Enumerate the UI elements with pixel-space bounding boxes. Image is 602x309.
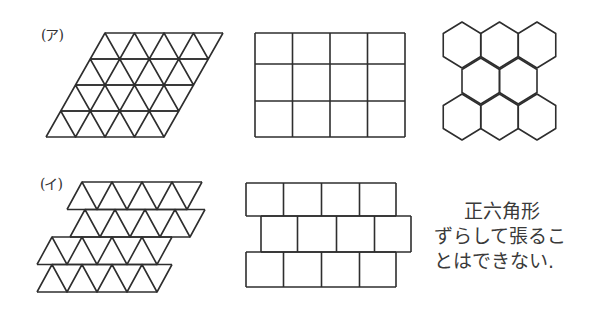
hexagon-tiling-grid	[443, 22, 556, 140]
note-line-3: とはできない.	[434, 249, 566, 274]
label-a: (ア)	[41, 24, 63, 44]
triangle-zigzag	[37, 265, 172, 293]
triangle-tiling-shifted-strips	[37, 182, 205, 292]
triangle-zigzag	[67, 182, 202, 210]
triangle-tiling-rhombus	[46, 33, 223, 137]
square-tiling-shifted-rows	[246, 183, 411, 287]
note-line-2: ずらして張るこ	[434, 224, 566, 249]
triangle-zigzag	[46, 111, 179, 137]
triangle-zigzag	[61, 85, 194, 111]
note-line-1: 正六角形	[434, 199, 566, 224]
label-i: (イ)	[40, 173, 62, 193]
hexagon-note: 正六角形 ずらして張るこ とはできない.	[434, 199, 566, 274]
triangle-zigzag	[70, 210, 205, 238]
triangle-zigzag	[37, 237, 172, 265]
square-tiling-grid	[255, 33, 405, 137]
triangle-zigzag	[76, 59, 209, 85]
triangle-zigzag	[90, 33, 223, 59]
